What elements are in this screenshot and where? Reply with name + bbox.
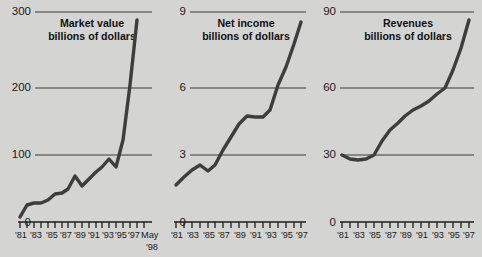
data-line-market-value xyxy=(20,20,137,217)
xtick-label-87: '87 xyxy=(60,230,72,240)
ytick-label-6: 6 xyxy=(180,81,186,93)
ytick-label-200: 200 xyxy=(12,81,31,93)
xtick-label-85: '85 xyxy=(203,230,215,240)
x-axis-ticks xyxy=(342,222,469,228)
xtick-label-87: '87 xyxy=(218,230,230,240)
ytick-label-90: 90 xyxy=(323,5,336,17)
panel-title: Net income xyxy=(217,17,274,29)
ytick-label-300: 300 xyxy=(12,5,31,17)
panel-subtitle: billions of dollars xyxy=(364,30,452,42)
xtick-label-91: '91 xyxy=(416,230,428,240)
xtick-label-83: '83 xyxy=(30,230,42,240)
xtick-label-85: '85 xyxy=(46,230,58,240)
xtick-label-93: '93 xyxy=(432,230,444,240)
xtick-label-95: '95 xyxy=(115,230,127,240)
xtick-label-85: '85 xyxy=(369,230,381,240)
xtick-label-97: '97 xyxy=(296,230,308,240)
panel-net-income: 9 6 3 0 Net income billions of dollars xyxy=(171,5,308,240)
xtick-label-98: '98 xyxy=(146,242,158,252)
panel-subtitle: billions of dollars xyxy=(48,30,136,42)
panel-revenues: 90 60 30 0 Revenues billions of dollars xyxy=(323,5,475,240)
panel-market-value: 300 200 100 0 Market value billions of d… xyxy=(12,5,159,252)
xtick-label-93: '93 xyxy=(102,230,114,240)
three-panel-line-chart-figure: 300 200 100 0 Market value billions of d… xyxy=(0,0,482,257)
xtick-label-97: '97 xyxy=(463,230,475,240)
xtick-label-89: '89 xyxy=(400,230,412,240)
xtick-label-81: '81 xyxy=(337,230,349,240)
xtick-label-83: '83 xyxy=(353,230,365,240)
ytick-label-9: 9 xyxy=(180,5,186,17)
xtick-label-91: '91 xyxy=(250,230,262,240)
xtick-label-89: '89 xyxy=(74,230,86,240)
chart-svg: 300 200 100 0 Market value billions of d… xyxy=(0,0,482,257)
xtick-label-83: '83 xyxy=(187,230,199,240)
x-axis-ticks xyxy=(20,222,144,228)
xtick-label-87: '87 xyxy=(385,230,397,240)
xtick-label-95: '95 xyxy=(281,230,293,240)
xtick-label-may: May xyxy=(141,230,159,240)
ytick-label-3: 3 xyxy=(180,148,186,160)
xtick-label-97: '97 xyxy=(128,230,140,240)
panel-title: Market value xyxy=(60,17,124,29)
xtick-label-81: '81 xyxy=(15,230,27,240)
x-axis-ticks xyxy=(176,222,301,228)
xtick-label-81: '81 xyxy=(171,230,183,240)
xtick-label-93: '93 xyxy=(265,230,277,240)
panel-title: Revenues xyxy=(383,17,433,29)
ytick-label-30: 30 xyxy=(323,148,336,160)
xtick-label-91: '91 xyxy=(88,230,100,240)
data-line-net-income xyxy=(176,22,301,185)
xtick-label-89: '89 xyxy=(234,230,246,240)
xtick-label-95: '95 xyxy=(448,230,460,240)
ytick-label-100: 100 xyxy=(12,148,31,160)
panel-subtitle: billions of dollars xyxy=(202,30,290,42)
ytick-label-0: 0 xyxy=(330,216,336,228)
ytick-label-60: 60 xyxy=(323,81,336,93)
